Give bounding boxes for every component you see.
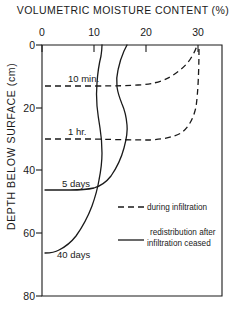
y-axis-title: DEPTH BELOW SURFACE (cm) [5,63,17,230]
moisture-depth-profile-chart: VOLUMETRIC MOISTURE CONTENT (%) 0 10 20 … [0,0,246,317]
chart-title: VOLUMETRIC MOISTURE CONTENT (%) [17,4,229,16]
curve-label-10min: 10 min. [68,73,99,84]
chart-figure: VOLUMETRIC MOISTURE CONTENT (%) 0 10 20 … [0,0,246,317]
curve-label-5days: 5 days [62,178,90,189]
ytick-label-40: 40 [23,164,35,176]
xtick-label-10: 10 [88,26,100,38]
xtick-label-20: 20 [140,26,152,38]
chart-legend: during infiltration redistribution after… [118,203,216,248]
legend-label-during-infiltration: during infiltration [147,203,208,212]
ytick-label-80: 80 [23,290,35,302]
x-axis-ticks [42,45,198,52]
legend-label-redistribution-line2: infiltration ceased [147,239,211,248]
xtick-label-30: 30 [192,26,204,38]
ytick-label-60: 60 [23,227,35,239]
ytick-label-20: 20 [23,102,35,114]
curve-label-40days: 40 days [57,249,91,260]
legend-label-redistribution-line1: redistribution after [150,228,216,237]
curve-5days [45,45,127,190]
xtick-label-0: 0 [39,26,45,38]
y-axis-ticks [36,45,42,296]
ytick-label-0: 0 [29,39,35,51]
curve-label-1hr: 1 hr. [68,126,87,137]
